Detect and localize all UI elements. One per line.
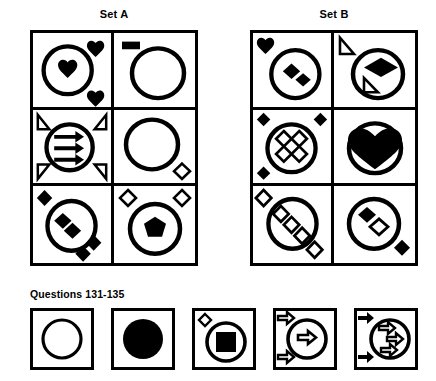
answer-option-1[interactable] xyxy=(30,308,94,370)
set-b-matrix xyxy=(250,30,418,266)
set-b-cell-r1c1[interactable] xyxy=(253,33,334,110)
diamond-outline-icon xyxy=(292,146,307,161)
diamond-outline-icon xyxy=(284,217,299,233)
set-a-cell-r1c1-figure xyxy=(33,33,111,107)
triangle-outline-icon xyxy=(38,164,50,178)
set-a-cell-r2c2[interactable] xyxy=(114,110,195,187)
circle-outline-icon xyxy=(132,48,184,98)
set-a-cell-r1c2[interactable] xyxy=(114,33,195,110)
answer-option-4[interactable] xyxy=(273,308,337,370)
set-a-matrix xyxy=(30,30,198,266)
diamond-outline-icon xyxy=(256,190,271,206)
circle-outline-icon xyxy=(268,199,316,249)
diamond-filled-icon xyxy=(295,73,310,86)
diamond-outline-icon xyxy=(199,314,211,326)
diamond-outline-icon xyxy=(370,219,388,235)
set-a-cell-r3c1[interactable] xyxy=(33,186,114,263)
set-a-title: Set A xyxy=(30,8,198,20)
heart-filled-icon xyxy=(87,41,104,57)
triangle-outline-icon xyxy=(38,114,50,128)
diamond-outline-icon xyxy=(120,190,136,206)
arrow-right-filled-icon xyxy=(54,131,84,142)
set-a-cell-r2c1-figure xyxy=(33,110,111,184)
rectangle-filled-icon xyxy=(122,42,140,50)
answer-options-row xyxy=(30,308,418,370)
set-a-cell-r3c2[interactable] xyxy=(114,186,195,263)
set-b-cell-r3c2-figure xyxy=(334,186,415,263)
set-b-cell-r1c2[interactable] xyxy=(334,33,415,110)
arrow-right-outline-icon xyxy=(298,331,316,344)
set-b-cell-r3c1-figure xyxy=(253,186,331,263)
circle-filled-icon xyxy=(123,319,163,359)
arrow-right-outline-icon xyxy=(278,312,294,324)
set-b-cell-r2c2[interactable] xyxy=(334,110,415,187)
set-b-title: Set B xyxy=(250,8,418,20)
diamond-filled-icon xyxy=(358,207,376,223)
set-a-cell-r3c1-figure xyxy=(33,186,111,263)
set-b-cell-r1c1-figure xyxy=(253,33,331,107)
diamond-filled-icon xyxy=(257,166,270,179)
diamond-outline-icon xyxy=(174,163,190,178)
answer-option-2-figure xyxy=(114,311,172,367)
triangle-outline-icon xyxy=(340,38,354,54)
heart-filled-icon xyxy=(257,38,274,54)
diamond-filled-icon xyxy=(314,113,327,126)
circle-outline-icon xyxy=(43,320,81,358)
worksheet-page: Set A Set B xyxy=(0,0,436,381)
answer-option-5[interactable] xyxy=(354,308,418,370)
answer-option-2[interactable] xyxy=(111,308,175,370)
heart-filled-icon xyxy=(87,90,104,106)
square-filled-icon xyxy=(216,332,236,352)
diamond-filled-icon xyxy=(394,240,410,256)
diamond-outline-icon xyxy=(174,190,190,206)
diamond-filled-icon xyxy=(257,113,270,126)
arrow-right-filled-icon xyxy=(358,351,374,363)
arrow-right-filled-icon xyxy=(54,142,84,153)
heart-filled-icon xyxy=(58,60,77,78)
set-b-cell-r2c1[interactable] xyxy=(253,110,334,187)
diamond-outline-icon xyxy=(292,131,307,146)
answer-option-1-figure xyxy=(33,311,91,367)
diamond-outline-icon xyxy=(276,131,291,146)
arrow-right-filled-icon xyxy=(358,312,374,324)
set-b-cell-r2c2-figure xyxy=(334,110,415,184)
set-a-cell-r2c2-figure xyxy=(114,110,195,184)
set-a-cell-r1c2-figure xyxy=(114,33,195,107)
triangle-outline-icon xyxy=(95,164,107,178)
arrow-right-filled-icon xyxy=(54,154,84,165)
diamond-filled-icon xyxy=(364,58,398,77)
diamond-outline-icon xyxy=(276,146,291,161)
questions-label: Questions 131-135 xyxy=(30,288,125,300)
diamond-filled-icon xyxy=(283,64,300,79)
arrow-right-outline-icon xyxy=(381,344,397,356)
set-b-cell-r2c1-figure xyxy=(253,110,331,184)
triangle-outline-icon xyxy=(364,78,378,92)
circle-outline-icon xyxy=(126,119,178,169)
answer-option-3[interactable] xyxy=(192,308,256,370)
set-a-cell-r1c1[interactable] xyxy=(33,33,114,110)
set-b-cell-r3c1[interactable] xyxy=(253,186,334,263)
heptagon-filled-icon xyxy=(144,217,166,237)
set-a-cell-r2c1[interactable] xyxy=(33,110,114,187)
answer-option-4-figure xyxy=(276,311,334,367)
set-b-cell-r3c2[interactable] xyxy=(334,186,415,263)
triangle-outline-icon xyxy=(95,114,107,128)
set-b-cell-r1c2-figure xyxy=(334,33,415,107)
answer-option-3-figure xyxy=(195,311,253,367)
circle-outline-icon xyxy=(267,124,315,172)
diamond-filled-icon xyxy=(86,235,101,251)
set-a-cell-r3c2-figure xyxy=(114,186,195,263)
diamond-filled-icon xyxy=(37,190,52,206)
answer-option-5-figure xyxy=(357,311,415,367)
